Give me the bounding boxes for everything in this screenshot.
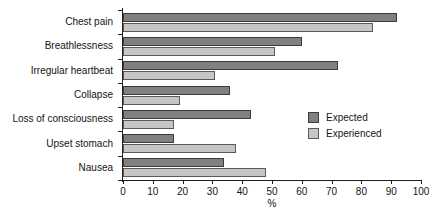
chart-legend: ExpectedExperienced — [308, 109, 382, 141]
bar-chart: Chest painBreathlessnessIrregular heartb… — [0, 0, 433, 224]
plot-area: 0102030405060708090100 — [123, 10, 421, 180]
category-label: Loss of consciousness — [12, 113, 113, 124]
x-axis-tick — [332, 180, 333, 184]
category-label: Upset stomach — [46, 138, 113, 149]
bar-experienced — [123, 120, 174, 129]
x-axis-tick — [212, 180, 213, 184]
x-axis-tick — [123, 180, 124, 184]
bar-experienced — [123, 23, 373, 32]
bar-experienced — [123, 71, 215, 80]
x-axis-tick — [272, 180, 273, 184]
x-axis-tick — [361, 180, 362, 184]
legend-label: Expected — [326, 112, 368, 123]
y-axis-tick — [118, 107, 123, 108]
y-axis-tick — [118, 180, 123, 181]
category-label: Chest pain — [65, 16, 113, 27]
y-axis-tick — [118, 59, 123, 60]
x-axis-tick — [302, 180, 303, 184]
x-axis-tick — [421, 180, 422, 184]
x-axis-tick — [391, 180, 392, 184]
y-axis-tick — [118, 131, 123, 132]
bar-experienced — [123, 144, 236, 153]
y-axis-tick — [118, 34, 123, 35]
legend-label: Experienced — [326, 128, 382, 139]
bar-expected — [123, 86, 230, 95]
category-axis-labels: Chest painBreathlessnessIrregular heartb… — [0, 10, 118, 180]
legend-swatch-expected — [308, 112, 319, 123]
x-axis-title: % — [123, 198, 421, 209]
bar-expected — [123, 13, 397, 22]
bar-experienced — [123, 168, 266, 177]
x-axis-tick-label: 100 — [404, 186, 433, 197]
bar-expected — [123, 134, 174, 143]
bar-expected — [123, 110, 251, 119]
bar-expected — [123, 61, 338, 70]
legend-swatch-experienced — [308, 128, 319, 139]
legend-item: Expected — [308, 109, 382, 125]
x-axis-tick — [242, 180, 243, 184]
legend-item: Experienced — [308, 125, 382, 141]
bar-expected — [123, 37, 302, 46]
category-label: Nausea — [79, 162, 113, 173]
bar-expected — [123, 158, 224, 167]
x-axis-tick — [153, 180, 154, 184]
y-axis-tick — [118, 83, 123, 84]
y-axis-tick — [118, 10, 123, 11]
category-label: Irregular heartbeat — [31, 65, 113, 76]
category-label: Collapse — [74, 89, 113, 100]
bar-experienced — [123, 96, 180, 105]
y-axis-tick — [118, 156, 123, 157]
bar-experienced — [123, 47, 275, 56]
category-label: Breathlessness — [45, 40, 113, 51]
x-axis-tick — [183, 180, 184, 184]
